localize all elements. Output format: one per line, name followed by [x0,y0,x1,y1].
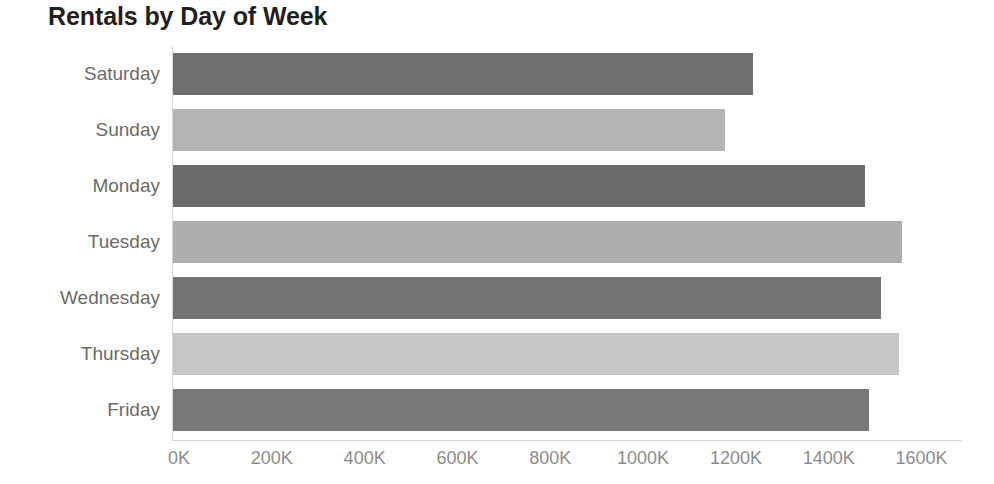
category-label-thursday: Thursday [0,343,160,365]
x-tick-1400K: 1400K [803,448,855,469]
bar-track [173,389,962,431]
chart-canvas: Rentals by Day of Week SaturdaySundayMon… [0,0,994,484]
bar-track [173,333,962,375]
bar-row: Saturday [0,46,994,102]
category-label-saturday: Saturday [0,63,160,85]
category-label-sunday: Sunday [0,119,160,141]
bar-track [173,221,962,263]
bar-row: Tuesday [0,214,994,270]
bar-friday[interactable] [173,389,869,431]
x-axis-line [172,440,962,441]
category-label-monday: Monday [0,175,160,197]
x-tick-800K: 800K [529,448,571,469]
bar-track [173,165,962,207]
bar-row: Sunday [0,102,994,158]
bar-sunday[interactable] [173,109,725,151]
bar-rows: SaturdaySundayMondayTuesdayWednesdayThur… [0,46,994,440]
bar-row: Wednesday [0,270,994,326]
category-label-tuesday: Tuesday [0,231,160,253]
bar-track [173,277,962,319]
x-tick-1000K: 1000K [617,448,669,469]
category-label-wednesday: Wednesday [0,287,160,309]
x-tick-400K: 400K [344,448,386,469]
bar-row: Monday [0,158,994,214]
bar-row: Thursday [0,326,994,382]
bar-track [173,53,962,95]
bar-track [173,109,962,151]
x-tick-1200K: 1200K [710,448,762,469]
x-tick-0K: 0K [168,448,190,469]
bar-monday[interactable] [173,165,865,207]
bar-tuesday[interactable] [173,221,902,263]
x-tick-1600K: 1600K [896,448,948,469]
category-label-friday: Friday [0,399,160,421]
page-title: Rentals by Day of Week [48,2,327,31]
x-tick-200K: 200K [251,448,293,469]
bar-wednesday[interactable] [173,277,881,319]
x-tick-600K: 600K [436,448,478,469]
x-axis-tick-labels: 0K200K400K600K800K1000K1200K1400K1600K [0,448,994,478]
bar-thursday[interactable] [173,333,899,375]
bar-saturday[interactable] [173,53,753,95]
bar-row: Friday [0,382,994,438]
